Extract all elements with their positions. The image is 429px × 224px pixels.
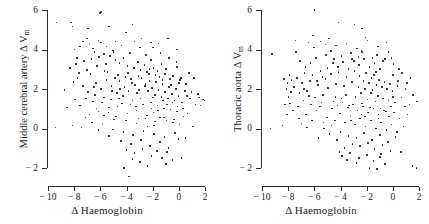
data-point bbox=[150, 42, 152, 44]
data-point bbox=[111, 90, 113, 92]
data-point bbox=[364, 88, 366, 90]
data-point bbox=[358, 56, 360, 58]
data-point bbox=[145, 54, 147, 56]
x-tick-left bbox=[127, 187, 128, 191]
data-point bbox=[365, 126, 367, 128]
data-point bbox=[397, 85, 399, 87]
data-point bbox=[100, 88, 102, 90]
data-point bbox=[305, 114, 307, 116]
data-point bbox=[290, 91, 292, 93]
data-point bbox=[152, 97, 154, 99]
data-point bbox=[119, 88, 121, 90]
data-point bbox=[124, 86, 126, 88]
data-point bbox=[323, 122, 325, 124]
data-point bbox=[121, 103, 123, 105]
data-point bbox=[298, 118, 300, 120]
data-point bbox=[185, 137, 187, 139]
data-point bbox=[108, 26, 110, 28]
data-point bbox=[168, 86, 170, 88]
data-point bbox=[56, 22, 58, 24]
data-point bbox=[132, 24, 134, 26]
data-point bbox=[350, 52, 352, 54]
data-point bbox=[195, 104, 197, 106]
data-point bbox=[396, 131, 398, 133]
data-point bbox=[380, 153, 382, 155]
data-point bbox=[105, 63, 107, 65]
data-point bbox=[141, 77, 143, 79]
data-point bbox=[405, 88, 407, 90]
data-point bbox=[98, 129, 100, 131]
x-tick-left bbox=[179, 187, 180, 191]
data-point bbox=[330, 50, 332, 52]
data-point bbox=[89, 43, 91, 45]
data-point bbox=[375, 101, 377, 103]
data-point bbox=[416, 167, 418, 169]
data-point bbox=[397, 80, 399, 82]
data-point bbox=[140, 98, 142, 100]
data-point bbox=[342, 61, 344, 63]
data-point bbox=[139, 161, 141, 163]
data-point bbox=[350, 116, 352, 118]
data-point bbox=[312, 74, 314, 76]
data-point bbox=[400, 151, 402, 153]
data-point bbox=[118, 98, 120, 100]
data-point bbox=[361, 28, 363, 30]
data-point bbox=[301, 82, 303, 84]
data-point bbox=[72, 26, 74, 28]
data-point bbox=[181, 102, 183, 104]
data-point bbox=[91, 122, 93, 124]
data-point bbox=[341, 155, 343, 157]
data-point bbox=[82, 85, 84, 87]
x-tick-left bbox=[74, 187, 75, 191]
y-tick-left bbox=[42, 89, 47, 90]
data-point bbox=[123, 57, 125, 59]
data-point bbox=[331, 125, 333, 127]
data-point bbox=[156, 150, 158, 152]
data-point bbox=[379, 134, 381, 136]
x-tick-label-left: 2 bbox=[203, 192, 208, 202]
data-point bbox=[106, 79, 108, 81]
data-point bbox=[178, 138, 180, 140]
data-point bbox=[304, 72, 306, 74]
data-point bbox=[323, 128, 325, 130]
data-point bbox=[101, 102, 103, 104]
data-point bbox=[92, 48, 94, 50]
data-point bbox=[148, 73, 150, 75]
x-tick-label-left: − 6 bbox=[94, 192, 106, 202]
data-point bbox=[346, 159, 348, 161]
data-point bbox=[388, 100, 390, 102]
data-point bbox=[74, 49, 76, 51]
data-point bbox=[356, 162, 358, 164]
data-point bbox=[305, 66, 307, 68]
data-point bbox=[75, 63, 77, 65]
data-point bbox=[111, 85, 113, 87]
data-point bbox=[120, 140, 122, 142]
data-point bbox=[391, 124, 393, 126]
data-point bbox=[162, 79, 164, 81]
data-point bbox=[161, 96, 163, 98]
data-point bbox=[164, 73, 166, 75]
data-point bbox=[359, 118, 361, 120]
data-point bbox=[359, 75, 361, 77]
y-tick-left bbox=[42, 10, 47, 11]
data-point bbox=[309, 80, 311, 82]
data-point bbox=[172, 159, 174, 161]
data-point bbox=[168, 147, 170, 149]
data-point bbox=[303, 100, 305, 102]
data-point bbox=[78, 72, 80, 74]
data-point bbox=[358, 64, 360, 66]
data-point bbox=[409, 104, 411, 106]
data-point bbox=[132, 158, 134, 160]
data-point bbox=[367, 142, 369, 144]
data-point bbox=[390, 106, 392, 108]
data-point bbox=[151, 108, 153, 110]
x-tick-label-right: − 4 bbox=[334, 192, 346, 202]
data-point bbox=[133, 67, 135, 69]
data-point bbox=[164, 136, 166, 138]
data-point bbox=[338, 22, 340, 24]
data-point bbox=[89, 114, 91, 116]
data-point bbox=[151, 155, 153, 157]
data-point bbox=[370, 120, 372, 122]
data-point bbox=[365, 72, 367, 74]
y-tick-label-right: 4 bbox=[214, 45, 252, 54]
